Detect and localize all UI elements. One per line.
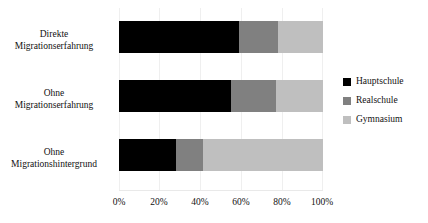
legend-swatch-gymnasium-icon bbox=[343, 116, 351, 124]
bar-segment-gymnasium bbox=[203, 139, 323, 171]
category-label-2-line2: Migrationshintergrund bbox=[0, 158, 108, 170]
legend-swatch-realschule-icon bbox=[343, 97, 351, 105]
bar-segment-gymnasium bbox=[278, 21, 323, 53]
category-label-1-line2: Migrationserfahrung bbox=[0, 99, 108, 111]
category-label-2-line1: Ohne bbox=[0, 146, 108, 158]
x-tick-40: 40% bbox=[191, 196, 208, 209]
bar-ohne-migrationserfahrung bbox=[119, 80, 323, 112]
bar-segment-realschule bbox=[231, 80, 276, 112]
legend-item-gymnasium: Gymnasium bbox=[343, 111, 428, 128]
legend-label-gymnasium: Gymnasium bbox=[356, 114, 402, 125]
category-label-1-line1: Ohne bbox=[0, 87, 108, 99]
legend-item-realschule: Realschule bbox=[343, 92, 428, 109]
x-tick-60: 60% bbox=[232, 196, 249, 209]
category-label-1: Ohne Migrationserfahrung bbox=[0, 87, 108, 111]
legend-label-realschule: Realschule bbox=[356, 95, 398, 106]
x-axis: 0% 20% 40% 60% 80% 100% bbox=[119, 196, 323, 212]
bar-segment-hauptschule bbox=[119, 139, 176, 171]
category-label-0-line2: Migrationserfahrung bbox=[0, 40, 108, 52]
category-label-0-line1: Direkte bbox=[0, 28, 108, 40]
x-tick-20: 20% bbox=[150, 196, 167, 209]
bar-segment-hauptschule bbox=[119, 80, 231, 112]
x-tick-80: 80% bbox=[273, 196, 290, 209]
legend: Hauptschule Realschule Gymnasium bbox=[343, 73, 428, 130]
bar-segment-realschule bbox=[239, 21, 278, 53]
category-label-2: Ohne Migrationshintergrund bbox=[0, 146, 108, 170]
x-tick-100: 100% bbox=[311, 196, 333, 209]
category-label-0: Direkte Migrationserfahrung bbox=[0, 28, 108, 52]
category-axis: Direkte Migrationserfahrung Ohne Migrati… bbox=[0, 12, 114, 192]
legend-item-hauptschule: Hauptschule bbox=[343, 73, 428, 90]
x-axis-line bbox=[119, 190, 323, 191]
bar-segment-realschule bbox=[176, 139, 203, 171]
legend-label-hauptschule: Hauptschule bbox=[356, 76, 404, 87]
bar-segment-gymnasium bbox=[276, 80, 323, 112]
x-tick-0: 0% bbox=[113, 196, 126, 209]
bar-direkte-migrationserfahrung bbox=[119, 21, 323, 53]
plot-area bbox=[119, 8, 323, 190]
bar-segment-hauptschule bbox=[119, 21, 239, 53]
legend-swatch-hauptschule-icon bbox=[343, 78, 351, 86]
bar-ohne-migrationshintergrund bbox=[119, 139, 323, 171]
stacked-bar-chart: Direkte Migrationserfahrung Ohne Migrati… bbox=[0, 0, 428, 223]
